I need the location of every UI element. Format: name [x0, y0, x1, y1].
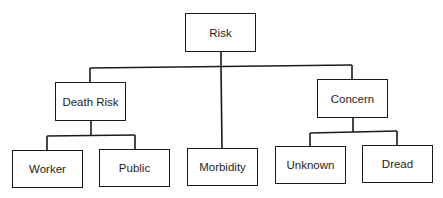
node-risk-label: Risk — [209, 27, 231, 39]
node-death-risk-label: Death Risk — [62, 96, 118, 108]
risk-hierarchy-diagram: Risk Death Risk Concern Worker Public Mo… — [0, 0, 443, 198]
node-dread-label: Dread — [382, 158, 413, 170]
node-death-risk: Death Risk — [55, 82, 126, 121]
node-unknown: Unknown — [275, 146, 346, 184]
node-concern: Concern — [317, 79, 388, 118]
node-unknown-label: Unknown — [287, 159, 335, 171]
node-dread: Dread — [362, 145, 433, 183]
node-public-label: Public — [119, 162, 150, 174]
node-worker-label: Worker — [29, 163, 66, 175]
node-public: Public — [99, 149, 170, 187]
node-morbidity: Morbidity — [187, 148, 258, 186]
node-risk: Risk — [185, 13, 256, 52]
node-morbidity-label: Morbidity — [199, 161, 246, 173]
node-worker: Worker — [12, 150, 83, 188]
node-concern-label: Concern — [331, 93, 374, 105]
